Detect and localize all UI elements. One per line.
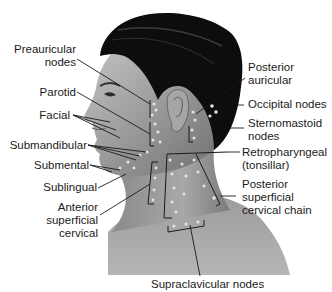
label-posterior-auricular: Posterior auricular: [248, 61, 294, 87]
label-facial: Facial: [8, 109, 70, 122]
label-sternomastoid-nodes: Sternomastoid nodes: [248, 117, 322, 143]
lymph-node-diagram: Preauricular nodes Parotid Facial Subman…: [0, 0, 332, 292]
label-parotid: Parotid: [8, 86, 76, 99]
label-posterior-superficial-cervical-chain: Posterior superficial cervical chain: [242, 178, 312, 217]
label-submental: Submental: [2, 159, 89, 172]
label-anterior-superficial-cervical: Anterior superficial cervical: [2, 201, 98, 240]
label-supraclavicular-nodes: Supraclavicular nodes: [151, 278, 264, 291]
label-submandibular: Submandibular: [2, 139, 87, 152]
label-sublingual: Sublingual: [2, 181, 97, 194]
label-occipital-nodes: Occipital nodes: [248, 98, 327, 111]
label-preauricular-nodes: Preauricular nodes: [8, 43, 76, 69]
label-retropharyngeal-tonsillar: Retropharyngeal (tonsillar): [242, 146, 327, 172]
